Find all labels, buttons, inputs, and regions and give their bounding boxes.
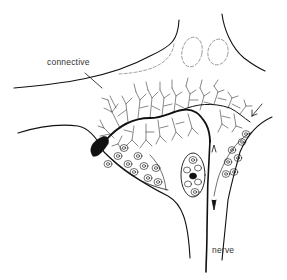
arrow-axon-top xyxy=(212,145,216,152)
connective-dashed-boundary xyxy=(118,44,174,74)
dendritic-arbor xyxy=(98,78,252,150)
inner-right-boundary xyxy=(214,132,252,196)
nerve-label: nerve xyxy=(212,245,234,255)
axon-descending xyxy=(206,140,210,272)
diagram-canvas xyxy=(0,0,287,280)
ganglion-outline-right xyxy=(222,117,272,260)
neurite-branch-right xyxy=(182,104,250,122)
connective-outline-right xyxy=(222,14,265,71)
cell-cluster-right xyxy=(222,131,250,178)
connective-label: connective xyxy=(47,57,90,67)
cell-cluster-center xyxy=(181,153,205,197)
dashed-ellipse-1 xyxy=(179,35,205,69)
neuron-diagram: connective nerve xyxy=(0,0,287,280)
inner-left-cluster-boundary xyxy=(150,155,166,190)
cell-cluster-left xyxy=(104,145,162,186)
connective-outline-left xyxy=(14,20,179,88)
arrow-axon-head xyxy=(212,200,216,210)
dashed-ellipse-2 xyxy=(206,37,231,67)
